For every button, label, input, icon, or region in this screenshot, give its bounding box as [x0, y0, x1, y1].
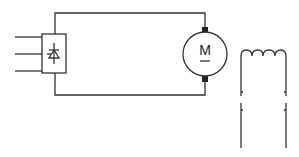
diode-icon [47, 43, 59, 64]
field-winding-coil [241, 50, 286, 148]
coil-icon [241, 50, 286, 96]
circuit-diagram: M [0, 0, 299, 157]
dc-motor: M [183, 27, 227, 82]
bottom-brush [202, 76, 208, 82]
motor-label: M [199, 42, 211, 58]
top-brush [202, 27, 208, 32]
three-phase-input-lines [15, 37, 42, 71]
bottom-wire [55, 73, 205, 95]
top-wire [55, 13, 205, 34]
rectifier-block [42, 34, 66, 73]
